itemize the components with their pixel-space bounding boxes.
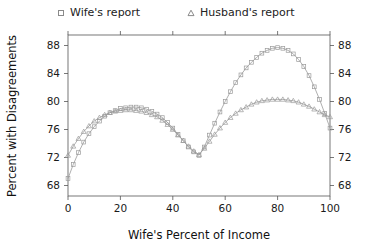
series-triangle-open — [65, 97, 332, 157]
triangle-open-icon — [187, 9, 195, 17]
x-tick-label: 0 — [65, 202, 72, 214]
square-open-icon — [57, 9, 65, 17]
legend-label-husband: Husband's report — [200, 6, 295, 20]
y-tick-label-right: 72 — [338, 151, 351, 163]
y-tick-label-left: 68 — [47, 179, 60, 191]
y-tick-label-right: 68 — [338, 179, 351, 191]
x-tick-label: 40 — [166, 202, 179, 214]
legend-entry-husband: Husband's report — [187, 6, 295, 20]
y-tick-label-right: 80 — [338, 95, 351, 107]
y-tick-label-left: 72 — [47, 151, 60, 163]
x-tick-label: 100 — [320, 202, 340, 214]
data-series — [65, 46, 332, 181]
figure: Wife's report Husband's report 020406080… — [0, 0, 379, 244]
x-tick-label: 60 — [219, 202, 232, 214]
y-tick-label-right: 88 — [338, 39, 351, 51]
y-tick-label-left: 76 — [47, 123, 61, 135]
y-tick-label-right: 84 — [338, 67, 352, 79]
chart-plot-area: 020406080100687276808488687276808488 Wif… — [0, 0, 379, 244]
y-tick-label-right: 76 — [338, 123, 352, 135]
y-axis-title: Percent with Disagreements — [5, 35, 19, 197]
legend-entry-wife: Wife's report — [57, 6, 140, 20]
legend-label-wife: Wife's report — [70, 6, 140, 20]
y-tick-label-left: 88 — [47, 39, 60, 51]
series-square-open — [66, 46, 332, 181]
x-tick-label: 20 — [114, 202, 127, 214]
chart-legend: Wife's report Husband's report — [0, 6, 379, 22]
x-axis-title: Wife's Percent of Income — [128, 228, 270, 242]
y-tick-label-left: 80 — [47, 95, 60, 107]
x-tick-label: 80 — [271, 202, 284, 214]
y-tick-label-left: 84 — [47, 67, 61, 79]
